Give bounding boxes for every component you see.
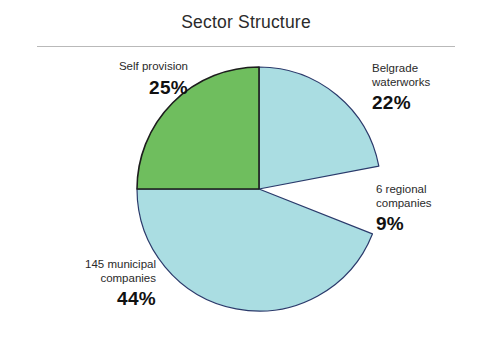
slice-percent-value: 25% [36, 76, 188, 99]
chart-page: Sector Structure Self provision 25% Belg… [0, 0, 492, 338]
slice-label-regional-companies: 6 regional companies 9% [376, 183, 488, 235]
slice-label-text: Self provision [36, 60, 188, 74]
slice-label-municipal-companies: 145 municipal companies 44% [12, 258, 156, 310]
slice-label-text: 6 regional companies [376, 183, 488, 210]
slice-label-belgrade-waterworks: Belgrade waterworks 22% [372, 62, 488, 114]
slice-percent-value: 44% [12, 287, 156, 310]
slice-label-self-provision: Self provision 25% [36, 60, 188, 99]
pie-slice-belgrade-waterworks[interactable] [259, 67, 379, 189]
slice-label-text: 145 municipal companies [12, 258, 156, 285]
slice-percent-value: 22% [372, 91, 488, 114]
slice-percent-value: 9% [376, 212, 488, 235]
slice-label-text: Belgrade waterworks [372, 62, 488, 89]
